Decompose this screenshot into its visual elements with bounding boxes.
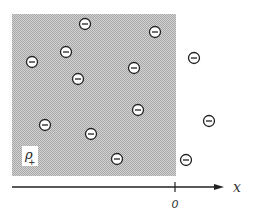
- negative-charge: [150, 27, 161, 38]
- negative-charge: [181, 155, 192, 166]
- origin-label: 0: [172, 198, 179, 211]
- negative-charge: [40, 120, 51, 131]
- plus-subscript: +: [28, 157, 36, 167]
- x-axis: x 0: [12, 179, 241, 211]
- negative-charge: [27, 57, 38, 68]
- negative-charge: [189, 53, 200, 64]
- negative-charge: [112, 154, 123, 165]
- region-label: ρ +: [22, 146, 38, 167]
- negative-charge: [61, 47, 72, 58]
- negative-charge: [129, 63, 140, 74]
- charge-distribution-diagram: ρ + x 0: [0, 0, 256, 218]
- x-axis-label: x: [233, 179, 241, 195]
- negative-charge: [204, 116, 215, 127]
- diagram-canvas: ρ + x 0: [0, 0, 256, 218]
- negative-charge: [133, 105, 144, 116]
- negative-charge: [86, 129, 97, 140]
- arrow-head-icon: [214, 184, 224, 190]
- negative-charge: [80, 19, 91, 30]
- negative-charge: [73, 74, 84, 85]
